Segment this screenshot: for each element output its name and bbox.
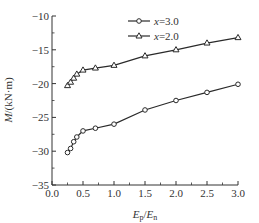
triangle-marker (74, 71, 80, 76)
y-tick-label: −10 (32, 10, 50, 22)
circle-marker (236, 82, 241, 87)
line-chart: −10−15−20−25−30−350.00.51.01.52.02.53.0 … (0, 0, 259, 223)
x-tick-label: 0.5 (76, 187, 90, 199)
circle-marker (81, 129, 86, 134)
x-tick-label: 2.0 (169, 187, 183, 199)
circle-marker (75, 135, 80, 140)
x-tick-label: 0.0 (45, 187, 59, 199)
circle-marker-icon (137, 19, 142, 24)
triangle-marker (235, 34, 241, 39)
circle-marker (93, 126, 98, 131)
series-x-3-0 (65, 82, 240, 155)
y-tick-label: −15 (32, 44, 50, 56)
y-tick-label: −20 (32, 78, 50, 90)
circle-marker (205, 90, 210, 95)
legend-label-x2: x=2.0 (153, 30, 179, 42)
y-axis-label: M/(kN·m) (2, 77, 15, 124)
legend-item-x2: x=2.0 (128, 30, 179, 42)
circle-marker (65, 150, 70, 155)
circle-marker (71, 139, 76, 144)
circle-marker (174, 98, 179, 103)
x-axis-label: Ep/En (132, 208, 158, 222)
legend-label-x3: x=3.0 (153, 15, 179, 27)
y-tick-label: −25 (32, 111, 50, 123)
legend-item-x3: x=3.0 (128, 15, 179, 27)
x-tick-label: 1.0 (107, 187, 121, 199)
circle-marker (143, 108, 148, 113)
x-tick-label: 3.0 (231, 187, 245, 199)
series-x-2-0 (65, 34, 242, 87)
circle-marker (112, 122, 117, 127)
circle-marker (68, 146, 73, 151)
x-tick-label: 1.5 (138, 187, 152, 199)
series-group (65, 34, 242, 154)
legend: x=3.0 x=2.0 (128, 15, 179, 42)
y-tick-label: −30 (32, 145, 50, 157)
x-tick-label: 2.5 (200, 187, 214, 199)
